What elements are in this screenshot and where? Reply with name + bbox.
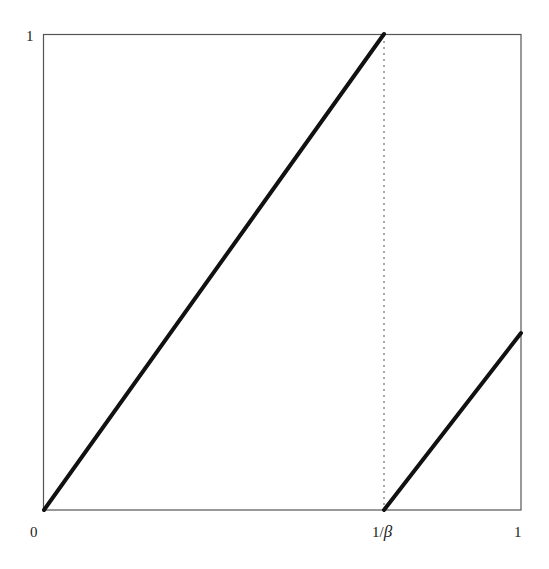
plot-frame [44, 35, 522, 511]
beta-transformation-plot: 1 0 1/β 1 [0, 0, 549, 569]
x-tick-label-0: 0 [30, 524, 38, 540]
y-tick-label-1: 1 [26, 28, 34, 44]
line-branch-1 [44, 34, 384, 510]
x-tick-label-beta: 1/β [372, 522, 393, 541]
line-branch-2 [384, 333, 521, 510]
x-tick-label-1: 1 [514, 524, 522, 540]
